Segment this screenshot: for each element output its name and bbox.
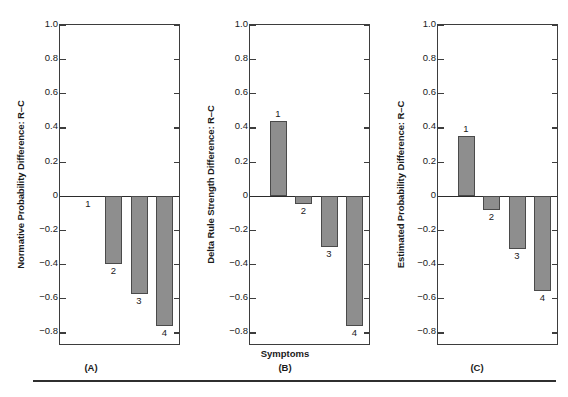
bar-label: 3 — [501, 251, 534, 261]
panel-a-tick-mark — [60, 127, 66, 128]
bar-label: 3 — [123, 296, 156, 306]
panel-a-y-tick-label: −0.4 — [39, 258, 58, 268]
panel-b-tick-mark — [250, 25, 256, 26]
panel-a-y-tick-label: 0.8 — [45, 53, 58, 63]
panel-b-tick-mark — [250, 93, 256, 94]
panel-a-tick-mark — [60, 332, 66, 333]
panel-a-y-tick-label: 1.0 — [45, 19, 58, 29]
panel-b-y-tick-label: 0 — [243, 190, 248, 200]
panel-b-plot-area: 1234 — [249, 24, 370, 345]
panel-c-tick-mark — [438, 127, 444, 128]
panel-a-y-tick-labels: 1.00.80.60.40.20−0.2−0.4−0.6−0.8 — [24, 24, 58, 316]
bar-label: 4 — [338, 328, 371, 338]
panel-b-tick-mark — [250, 264, 256, 265]
figure: Normative Probability Difference: R–C 1.… — [0, 0, 568, 397]
bar-label: 1 — [450, 124, 483, 134]
panel-b-tick-mark — [364, 127, 370, 128]
panel-c-y-tick-label: 1.0 — [423, 19, 436, 29]
panel-c-tick-mark — [438, 25, 444, 26]
bar — [483, 196, 500, 211]
panel-b-tick-mark — [364, 59, 370, 60]
panel-a-tick-mark — [174, 93, 180, 94]
panel-b-tick-mark — [364, 162, 370, 163]
panel-b-y-tick-label: 1.0 — [235, 19, 248, 29]
bar — [131, 196, 148, 294]
panel-c-plot-area: 1234 — [437, 24, 558, 345]
panel-c-y-tick-label: −0.6 — [417, 292, 436, 302]
panel-a-tick-mark — [174, 59, 180, 60]
panel-b-tick-mark — [364, 264, 370, 265]
panel-b-tick-mark — [250, 59, 256, 60]
panel-c-y-tick-label: 0.6 — [423, 88, 436, 98]
panel-a-plot-area: 1234 — [59, 24, 180, 345]
panel-c-tick-mark — [552, 59, 558, 60]
panel-b-tick-mark — [250, 162, 256, 163]
bar — [509, 196, 526, 249]
panel-a-tick-mark — [174, 162, 180, 163]
bar-label: 2 — [287, 206, 320, 216]
panel-b-tick-mark — [364, 298, 370, 299]
panel-b-x-axis-title: Symptoms — [190, 348, 380, 359]
panel-c-y-tick-label: 0.4 — [423, 122, 436, 132]
panel-b-y-tick-label: −0.2 — [229, 224, 248, 234]
panel-c-tick-mark — [552, 93, 558, 94]
panel-a-y-tick-label: 0.2 — [45, 156, 58, 166]
panel-a-y-tick-label: −0.6 — [39, 292, 58, 302]
panel-a-tick-mark — [60, 59, 66, 60]
panel-a-letter: (A) — [0, 362, 186, 373]
panel-b-y-tick-label: 0.6 — [235, 88, 248, 98]
panel-c-tick-mark — [438, 93, 444, 94]
horizontal-rule — [33, 380, 556, 382]
panel-b-y-tick-labels: 1.00.80.60.40.20−0.2−0.4−0.6−0.8 — [214, 24, 248, 316]
panel-a-tick-mark — [174, 127, 180, 128]
bar — [156, 196, 173, 326]
panel-a-tick-mark — [60, 25, 66, 26]
panel-a-tick-mark — [60, 230, 66, 231]
bar — [458, 136, 475, 196]
panel-a-tick-mark — [60, 162, 66, 163]
panel-b-tick-mark — [250, 127, 256, 128]
panel-c-letter: (C) — [383, 362, 568, 373]
figure-footnote — [33, 386, 556, 397]
panel-b-tick-mark — [364, 93, 370, 94]
bar-label: 1 — [72, 199, 105, 209]
bar — [295, 196, 312, 205]
bar — [321, 196, 338, 247]
panel-c-y-tick-label: 0.2 — [423, 156, 436, 166]
bar — [105, 196, 122, 264]
panel-c-y-tick-labels: 1.00.80.60.40.20−0.2−0.4−0.6−0.8 — [402, 24, 436, 316]
panel-b: Delta Rule Strength Difference: R–C 1.00… — [190, 0, 380, 360]
bar-label: 4 — [526, 293, 559, 303]
panel-b-y-tick-label: −0.8 — [229, 327, 248, 337]
panel-a-y-tick-label: −0.8 — [39, 327, 58, 337]
bar — [534, 196, 551, 292]
panel-a-y-tick-label: −0.2 — [39, 224, 58, 234]
panel-b-tick-mark — [250, 298, 256, 299]
panel-b-y-tick-label: −0.6 — [229, 292, 248, 302]
panel-b-y-tick-label: 0.8 — [235, 53, 248, 63]
panel-c-tick-mark — [552, 162, 558, 163]
panel-c-tick-mark — [552, 264, 558, 265]
panel-c: Estimated Probability Difference: R–C 1.… — [380, 0, 568, 360]
panel-c-tick-mark — [552, 25, 558, 26]
panel-c-y-tick-label: −0.2 — [417, 224, 436, 234]
panel-b-y-tick-label: 0.2 — [235, 156, 248, 166]
panel-c-tick-mark — [552, 127, 558, 128]
panel-a-tick-mark — [174, 298, 180, 299]
panel-b-letter: (B) — [190, 362, 380, 373]
panel-b-tick-mark — [364, 25, 370, 26]
panel-c-y-tick-label: 0 — [431, 190, 436, 200]
panel-b-tick-mark — [250, 230, 256, 231]
bar — [270, 121, 287, 196]
panel-a-tick-mark — [174, 230, 180, 231]
panel-c-tick-mark — [552, 332, 558, 333]
panel-a-tick-mark — [60, 264, 66, 265]
bar-label: 3 — [313, 249, 346, 259]
panel-c-tick-mark — [438, 59, 444, 60]
panel-c-tick-mark — [438, 162, 444, 163]
panel-a: Normative Probability Difference: R–C 1.… — [0, 0, 190, 360]
panel-b-tick-mark — [364, 230, 370, 231]
panel-a-tick-mark — [174, 25, 180, 26]
bar — [346, 196, 363, 327]
panel-c-tick-mark — [438, 298, 444, 299]
